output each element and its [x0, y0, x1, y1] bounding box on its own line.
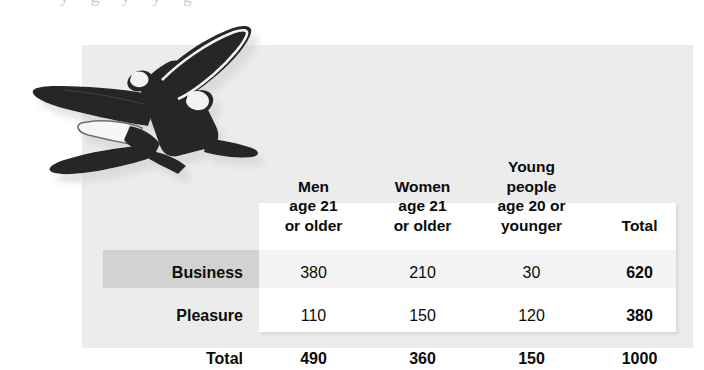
header-women-line3: or older — [368, 216, 477, 236]
cell-pleasure-men: 110 — [259, 295, 368, 337]
cell-pleasure-young: 120 — [477, 295, 586, 337]
header-women-age-21-or-older: Women age 21 or older — [368, 177, 477, 236]
cell-total-women: 360 — [368, 338, 477, 370]
row-label-business: Business — [82, 252, 259, 294]
header-total: Total — [586, 216, 693, 236]
cell-total-men: 490 — [259, 338, 368, 370]
header-young-line3: age 20 or — [477, 196, 586, 216]
cell-business-total: 620 — [586, 252, 693, 294]
header-women-line1: Women — [368, 177, 477, 197]
header-men-line1: Men — [259, 177, 368, 197]
header-men-line2: age 21 — [259, 196, 368, 216]
cell-pleasure-total: 380 — [586, 295, 693, 337]
cell-business-men: 380 — [259, 252, 368, 294]
header-total-line1: Total — [586, 216, 693, 236]
cell-business-young: 30 — [477, 252, 586, 294]
header-women-line2: age 21 — [368, 196, 477, 216]
figure-canvas: y g y y g — [0, 0, 704, 370]
cell-business-women: 210 — [368, 252, 477, 294]
contingency-table: Men age 21 or older Women age 21 or olde… — [82, 45, 693, 348]
page-text-bleed-glyphs: y g y y g — [60, 0, 201, 7]
header-men-age-21-or-older: Men age 21 or older — [259, 177, 368, 236]
header-men-line3: or older — [259, 216, 368, 236]
header-young-line1: Young — [477, 157, 586, 177]
row-label-total: Total — [82, 338, 259, 370]
cell-total-grand: 1000 — [586, 338, 693, 370]
row-label-pleasure: Pleasure — [82, 295, 259, 337]
table-header-row: Men age 21 or older Women age 21 or olde… — [82, 125, 693, 235]
table-row: Business 380 210 30 620 — [82, 252, 693, 294]
page-text-bleed: y g y y g — [0, 0, 704, 14]
header-young-line4: younger — [477, 216, 586, 236]
table-row: Pleasure 110 150 120 380 — [82, 295, 693, 337]
header-young-line2: people — [477, 177, 586, 197]
cell-pleasure-women: 150 — [368, 295, 477, 337]
cell-total-young: 150 — [477, 338, 586, 370]
header-young-people-age-20-or-younger: Young people age 20 or younger — [477, 157, 586, 235]
table-row: Total 490 360 150 1000 — [82, 338, 693, 370]
